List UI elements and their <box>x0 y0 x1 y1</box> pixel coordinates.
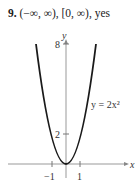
parabola-graph: −1 1 2 8 y x y = 2x² <box>0 0 138 188</box>
equation-label: y = 2x² <box>91 99 120 110</box>
x-tick-label-neg1: −1 <box>44 171 55 182</box>
y-tick-label-2: 2 <box>55 129 60 140</box>
x-axis-arrow-icon <box>124 162 129 166</box>
x-tick-label-1: 1 <box>77 171 82 182</box>
y-tick-label-8: 8 <box>55 39 60 50</box>
x-axis-label: x <box>129 159 135 170</box>
y-axis-label: y <box>61 30 67 41</box>
